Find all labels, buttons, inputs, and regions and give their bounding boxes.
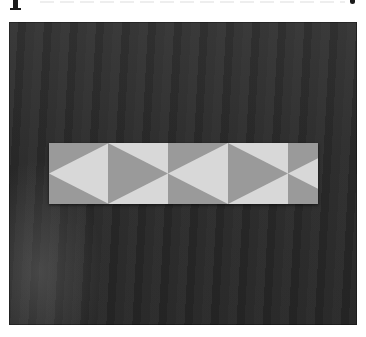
letter-serif xyxy=(10,8,21,10)
quilt-block xyxy=(49,143,108,204)
quilt-photo xyxy=(9,22,357,325)
quilt-block xyxy=(168,143,228,204)
quilt-block xyxy=(228,143,288,204)
quilt-block xyxy=(288,143,318,204)
faint-text-remnant xyxy=(40,1,345,3)
quilt-strip xyxy=(49,143,318,204)
letter-descender xyxy=(350,0,355,4)
quilt-block xyxy=(108,143,168,204)
